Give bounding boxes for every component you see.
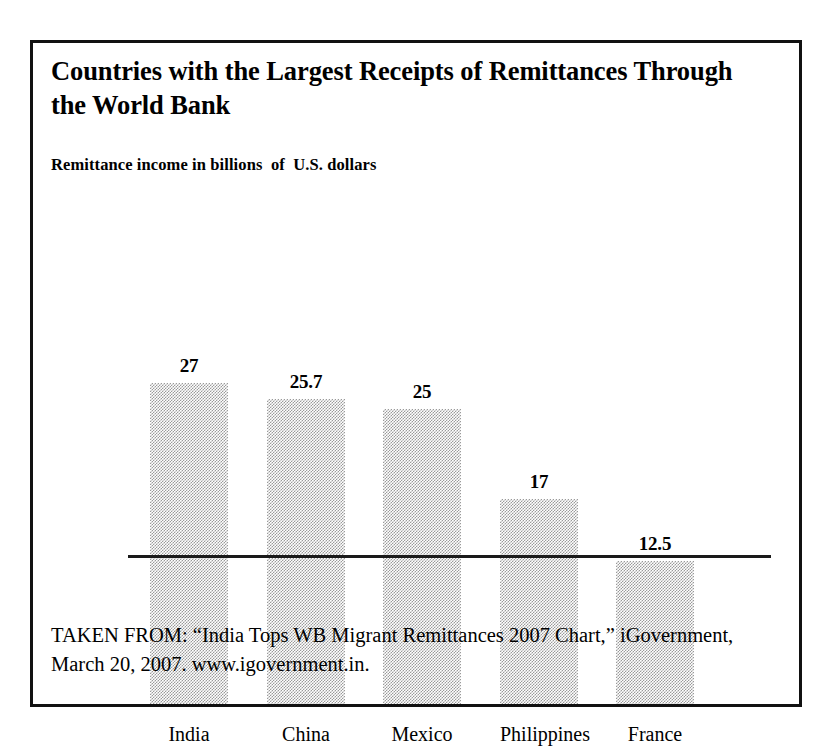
chart-source-citation: TAKEN FROM: “India Tops WB Migrant Remit… bbox=[51, 621, 775, 679]
bar-label-philippines: Philippines bbox=[500, 723, 578, 746]
bar-label-mexico: Mexico bbox=[383, 723, 461, 746]
bar-value-philippines: 17 bbox=[500, 471, 578, 493]
bar-label-france: France bbox=[616, 723, 694, 746]
figure-inner: Countries with the Largest Receipts of R… bbox=[33, 43, 799, 704]
x-axis-line bbox=[128, 555, 771, 558]
bar-label-india: India bbox=[150, 723, 228, 746]
bar-value-mexico: 25 bbox=[383, 381, 461, 403]
bar-value-china: 25.7 bbox=[267, 371, 345, 393]
figure-frame: Countries with the Largest Receipts of R… bbox=[30, 40, 802, 707]
bar-value-france: 12.5 bbox=[616, 533, 694, 555]
bar-label-china: China bbox=[267, 723, 345, 746]
bar-value-india: 27 bbox=[150, 355, 228, 377]
plot-area: 27 India 25.7 China 25 Mexico 17 Philipp… bbox=[33, 43, 799, 704]
